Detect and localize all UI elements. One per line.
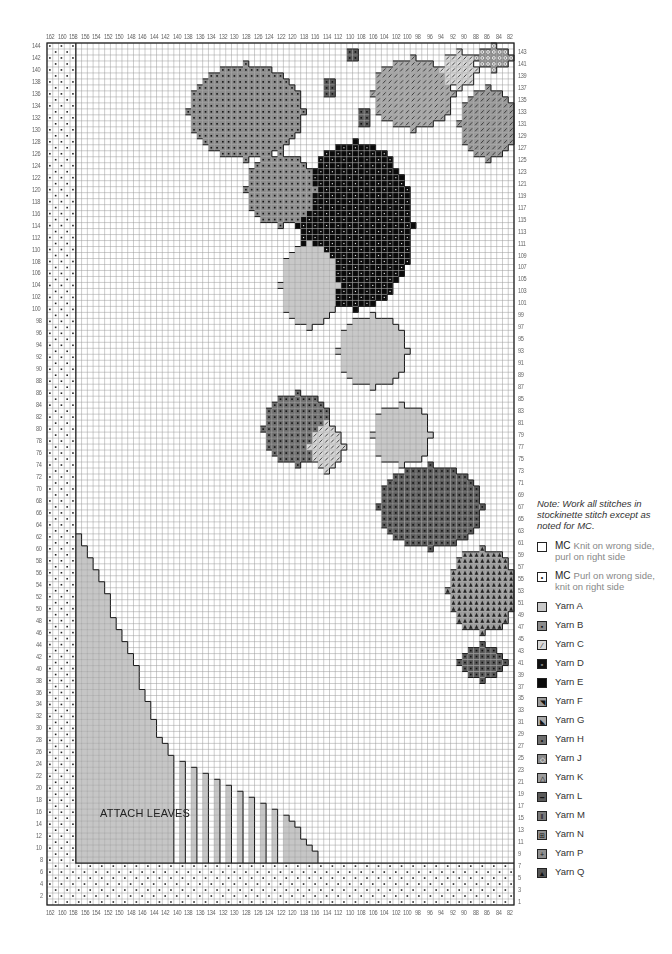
legend-label: Yarn B <box>555 620 583 631</box>
legend-item-l: ━Yarn L <box>537 791 672 805</box>
row-label-left: 98 <box>36 317 42 324</box>
row-label-left: 16 <box>36 808 42 815</box>
column-label-top: 108 <box>357 33 365 40</box>
row-label-left: 138 <box>32 78 40 85</box>
row-label-left: 112 <box>32 234 40 241</box>
row-label-left: 62 <box>36 533 42 540</box>
row-label-left: 106 <box>32 269 40 276</box>
row-label-right: 101 <box>518 299 526 306</box>
row-label-right: 33 <box>518 706 524 713</box>
row-label-right: 99 <box>518 311 524 318</box>
row-label-right: 9 <box>518 850 521 857</box>
swatch-double-bar-icon: ‖ <box>537 811 547 821</box>
row-label-left: 34 <box>36 700 42 707</box>
row-label-right: 103 <box>518 287 526 294</box>
column-label-bottom: 136 <box>196 909 204 916</box>
legend-label: Yarn Q <box>555 867 584 878</box>
legend-note: Note: Work all stitches in stockinette s… <box>537 498 672 531</box>
legend-item-mc2: •MCPurl on wrong side, knit on right sid… <box>537 571 672 592</box>
column-label-top: 120 <box>288 33 296 40</box>
row-label-right: 25 <box>518 754 524 761</box>
row-label-left: 126 <box>32 150 40 157</box>
column-label-bottom: 144 <box>150 909 158 916</box>
legend-item-q: ▲Yarn Q <box>537 867 672 881</box>
row-label-right: 13 <box>518 826 524 833</box>
row-label-right: 11 <box>518 838 523 845</box>
legend-yarn-name: Yarn G <box>555 714 584 725</box>
column-label-top: 150 <box>115 33 123 40</box>
column-label-bottom: 106 <box>369 909 377 916</box>
legend-yarn-name: Yarn J <box>555 752 582 763</box>
row-label-right: 55 <box>518 575 524 582</box>
column-label-top: 82 <box>507 33 513 40</box>
legend-label: Yarn F <box>555 696 583 707</box>
swatch-dot-icon: • <box>537 735 547 745</box>
column-label-bottom: 86 <box>484 909 490 916</box>
legend-yarn-name: Yarn Q <box>555 866 584 877</box>
row-label-right: 127 <box>518 144 526 151</box>
row-label-left: 96 <box>36 329 42 336</box>
row-label-right: 21 <box>518 778 524 785</box>
row-label-left: 32 <box>36 712 42 719</box>
row-label-left: 70 <box>36 485 42 492</box>
row-label-right: 53 <box>518 587 524 594</box>
row-label-right: 91 <box>518 359 524 366</box>
row-label-left: 52 <box>36 593 42 600</box>
row-label-left: 4 <box>40 880 43 887</box>
row-label-left: 134 <box>32 102 40 109</box>
row-label-left: 36 <box>36 689 42 696</box>
attach-leaves-annotation: ATTACH LEAVES <box>100 807 190 819</box>
column-label-top: 146 <box>138 33 146 40</box>
legend-label: Yarn J <box>555 753 582 764</box>
legend-yarn-name: Yarn K <box>555 771 583 782</box>
row-label-right: 63 <box>518 527 524 534</box>
column-label-bottom: 82 <box>507 909 513 916</box>
row-label-right: 27 <box>518 742 524 749</box>
row-label-left: 18 <box>36 796 42 803</box>
row-label-right: 143 <box>518 48 526 55</box>
legend-yarn-name: Yarn P <box>555 847 583 858</box>
column-label-top: 156 <box>81 33 89 40</box>
column-label-top: 94 <box>438 33 444 40</box>
column-label-bottom: 102 <box>392 909 400 916</box>
swatch-triangle-corner-icon: ◥ <box>537 697 547 707</box>
row-label-left: 78 <box>36 437 42 444</box>
row-label-left: 142 <box>32 54 40 61</box>
legend-item-mc: MCKnit on wrong side, purl on right side <box>537 541 672 562</box>
swatch-triangle-icon: △ <box>537 773 547 783</box>
legend-label: Yarn G <box>555 715 584 726</box>
row-label-left: 58 <box>36 557 42 564</box>
legend-yarn-name: Yarn L <box>555 790 582 801</box>
legend-item-g: ◣Yarn G <box>537 715 672 729</box>
row-label-right: 19 <box>518 790 524 797</box>
row-label-right: 65 <box>518 515 524 522</box>
row-label-left: 94 <box>36 341 42 348</box>
row-label-left: 130 <box>32 126 40 133</box>
column-label-bottom: 152 <box>104 909 112 916</box>
column-label-bottom: 100 <box>403 909 411 916</box>
row-label-right: 95 <box>518 335 524 342</box>
row-label-left: 140 <box>32 66 40 73</box>
column-label-top: 132 <box>219 33 227 40</box>
legend-label: Yarn M <box>555 810 585 821</box>
row-label-right: 121 <box>518 180 526 187</box>
column-label-top: 122 <box>277 33 285 40</box>
column-label-bottom: 128 <box>242 909 250 916</box>
row-label-left: 120 <box>32 186 40 193</box>
row-label-right: 69 <box>518 491 524 498</box>
column-label-top: 148 <box>127 33 135 40</box>
column-label-bottom: 142 <box>161 909 169 916</box>
legend-yarn-name: Yarn A <box>555 600 583 611</box>
column-label-top: 102 <box>392 33 400 40</box>
row-label-left: 38 <box>36 677 42 684</box>
row-label-left: 72 <box>36 473 42 480</box>
column-label-top: 118 <box>300 33 308 40</box>
legend-yarn-name: Yarn B <box>555 619 583 630</box>
row-label-left: 40 <box>36 665 42 672</box>
row-label-right: 7 <box>518 862 521 869</box>
column-label-top: 142 <box>161 33 169 40</box>
column-label-bottom: 120 <box>288 909 296 916</box>
column-label-top: 98 <box>415 33 421 40</box>
column-label-bottom: 88 <box>473 909 479 916</box>
row-label-right: 133 <box>518 108 526 115</box>
